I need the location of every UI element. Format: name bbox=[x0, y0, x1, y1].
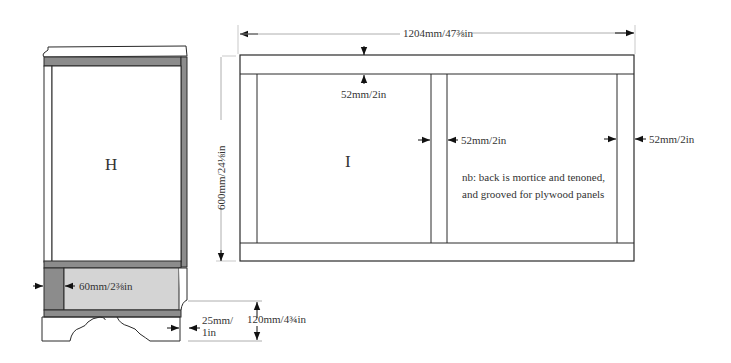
dim-overall-width: 1204mm/47⅜in bbox=[403, 27, 473, 39]
top-rail bbox=[44, 57, 181, 66]
construction-note-line2: and grooved for plywood panels bbox=[462, 188, 604, 200]
construction-note-line1: nb: back is mortice and tenoned, bbox=[462, 171, 605, 183]
dim-rail-label: 60mm/2⅜in bbox=[79, 280, 133, 292]
right-stile bbox=[181, 57, 187, 267]
dim-centre-stile: 52mm/2in bbox=[461, 134, 507, 146]
lower-stile bbox=[44, 268, 64, 310]
bottom-rail bbox=[44, 310, 181, 317]
cabinet-drawing: H 60mm/2⅜in 25mm/ 1in 120mm/4¾in bbox=[0, 0, 731, 363]
dim-plinth-line2: 1in bbox=[202, 326, 217, 338]
lower-right-edge bbox=[179, 268, 187, 310]
dim-plinth-line1: 25mm/ bbox=[202, 314, 234, 326]
back-frame bbox=[240, 55, 634, 261]
left-stile bbox=[44, 66, 52, 262]
panel-i-label: I bbox=[345, 152, 351, 171]
back-view: 1204mm/47⅜in 600mm/24⅛in 52mm/2in I 52mm… bbox=[215, 25, 695, 261]
dim-plinth-height: 120mm/4¾in bbox=[247, 313, 306, 325]
dim-overall-height: 600mm/24⅛in bbox=[215, 145, 227, 210]
top-moulding bbox=[43, 46, 187, 57]
dim-end-stile: 52mm/2in bbox=[649, 133, 695, 145]
dim-top-rail: 52mm/2in bbox=[341, 88, 387, 100]
panel-h-label: H bbox=[105, 155, 117, 174]
plinth bbox=[42, 317, 180, 341]
mid-rail bbox=[44, 261, 181, 268]
